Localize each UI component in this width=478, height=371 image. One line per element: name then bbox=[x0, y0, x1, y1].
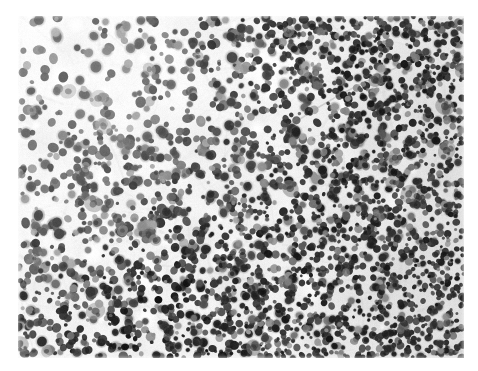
tissue-micrograph bbox=[18, 16, 464, 358]
page-root bbox=[0, 0, 478, 371]
micrograph-canvas bbox=[18, 16, 464, 358]
